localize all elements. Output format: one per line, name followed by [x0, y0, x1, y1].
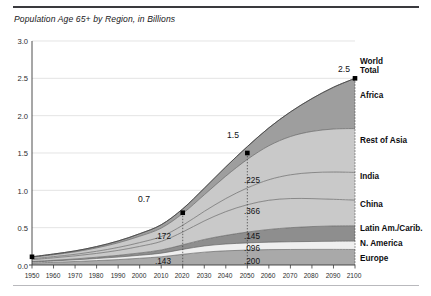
value-china-2050: .366 [244, 207, 260, 216]
ytick-2-0: 2.0 [6, 112, 28, 121]
ytick-2-5: 2.5 [6, 74, 28, 83]
area-bands [32, 78, 355, 265]
legend-india: India [360, 172, 379, 181]
legend-china: China [360, 200, 383, 209]
value-latin-america-2050: .145 [244, 232, 260, 241]
ytick-1-5: 1.5 [6, 149, 28, 158]
legend-africa: Africa [360, 91, 383, 100]
legend-north-america: N. America [360, 239, 402, 248]
marker-total-2100 [353, 76, 358, 81]
value-china-2020: .172 [155, 232, 171, 241]
ytick-3-0: 3.0 [6, 37, 28, 46]
value-north-america-2050: .096 [244, 244, 260, 253]
ytick-1-0: 1.0 [6, 187, 28, 196]
annotation-total-2100: 2.5 [331, 64, 350, 74]
legend-world-total-line1: World [360, 57, 383, 66]
marker-origin-1950 [30, 254, 35, 259]
xtick-2100: 2100 [339, 272, 369, 279]
legend-latin-america-caribbean: Latin Am./Carib. [360, 224, 422, 233]
stacked-area-chart [0, 0, 431, 296]
annotation-total-2050: 1.5 [220, 130, 239, 140]
marker-total-2050 [245, 151, 250, 156]
ytick-0-5: 0.5 [6, 224, 28, 233]
annotation-total-2020: 0.7 [131, 194, 150, 204]
value-india-2050: .225 [244, 176, 260, 185]
legend-rest-of-asia: Rest of Asia [360, 136, 407, 145]
legend-europe: Europe [360, 254, 388, 263]
ytick-0-0: 0.0 [6, 262, 28, 271]
figure-container: Population Age 65+ by Region, in Billion… [0, 0, 431, 296]
value-europe-2020: .143 [155, 257, 171, 266]
value-europe-2050: .200 [244, 257, 260, 266]
legend-world-total-line2: Total [360, 66, 379, 75]
marker-total-2020 [180, 210, 185, 215]
